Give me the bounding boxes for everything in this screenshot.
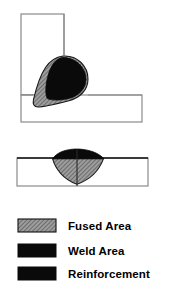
legend-row-reinforcement: Reinforcement bbox=[18, 267, 150, 280]
fused-area-swatch bbox=[18, 219, 56, 232]
fused-area-label: Fused Area bbox=[68, 220, 132, 232]
legend-row-weld-area: Weld Area bbox=[18, 244, 125, 257]
reinforcement-label: Reinforcement bbox=[68, 268, 150, 280]
weld-area-swatch bbox=[18, 244, 56, 257]
weld-diagram-svg: Fused Area Weld Area Reinforcement bbox=[0, 0, 170, 289]
weld-area-label: Weld Area bbox=[68, 245, 125, 257]
legend-row-fused-area: Fused Area bbox=[18, 219, 132, 232]
reinforcement-swatch bbox=[18, 267, 56, 280]
weld-diagram-figure: Fused Area Weld Area Reinforcement bbox=[0, 0, 170, 289]
